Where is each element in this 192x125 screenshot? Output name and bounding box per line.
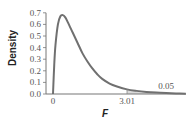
x-tick-critical: 3.01 (119, 96, 135, 106)
f-distribution-chart: 0.00.10.20.30.40.50.60.7 Density 0 3.01 … (0, 0, 192, 125)
y-tick-label: 0.2 (30, 66, 41, 76)
y-tick-label: 0.7 (30, 8, 42, 18)
y-tick-label: 0.0 (30, 89, 42, 99)
y-tick-label: 0.4 (30, 43, 42, 53)
y-axis-title: Density (7, 30, 18, 67)
y-tick-label: 0.5 (30, 31, 42, 41)
y-tick-label: 0.6 (30, 19, 42, 29)
tail-probability-label: 0.05 (158, 81, 174, 91)
y-tick-label: 0.1 (30, 77, 41, 87)
x-axis-title: F (102, 108, 109, 119)
x-tick-zero: 0 (51, 96, 56, 106)
y-axis: 0.00.10.20.30.40.50.60.7 (30, 8, 46, 99)
y-tick-label: 0.3 (30, 54, 42, 64)
